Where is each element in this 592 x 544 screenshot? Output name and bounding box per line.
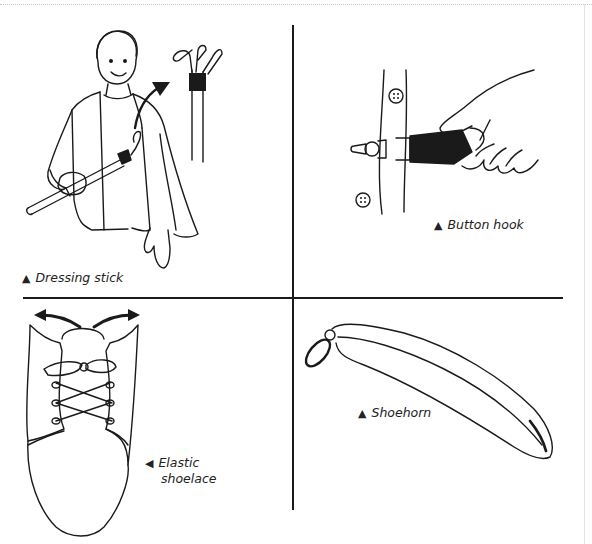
caption-text-line1: Elastic xyxy=(158,455,199,470)
caption-marker-triangle-up-icon: ▲ xyxy=(434,219,442,232)
caption-shoehorn: ▲Shoehorn xyxy=(358,405,431,421)
page-right-rule xyxy=(584,4,585,544)
panel-dressing-stick: ▲Dressing stick xyxy=(0,0,292,297)
caption-button-hook: ▲Button hook xyxy=(434,217,524,233)
caption-elastic-shoelace: ◀Elastic shoelace xyxy=(145,455,235,486)
caption-text-line2: shoelace xyxy=(145,471,235,486)
panel-elastic-shoelace: ◀Elastic shoelace xyxy=(0,299,292,544)
button-hook-illustration xyxy=(294,0,584,297)
dressing-stick-illustration xyxy=(0,0,292,297)
caption-text: Shoehorn xyxy=(371,405,431,420)
caption-text: Dressing stick xyxy=(35,270,123,285)
elastic-shoelace-illustration xyxy=(0,299,292,544)
caption-marker-triangle-up-icon: ▲ xyxy=(358,407,366,420)
caption-marker-triangle-up-icon: ▲ xyxy=(22,272,30,285)
caption-marker-triangle-left-icon: ◀ xyxy=(145,457,153,470)
caption-dressing-stick: ▲Dressing stick xyxy=(22,270,123,286)
shoehorn-illustration xyxy=(294,299,584,544)
caption-text: Button hook xyxy=(447,217,523,232)
panel-button-hook: ▲Button hook xyxy=(294,0,584,297)
panel-shoehorn: ▲Shoehorn xyxy=(294,299,584,544)
